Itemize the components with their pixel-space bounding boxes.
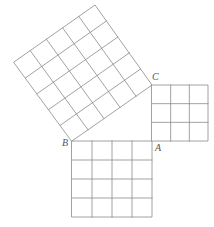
square-on-bc-grid-line [79, 16, 136, 96]
square-on-bc-grid-line [63, 28, 120, 108]
square-on-ac-outline [152, 85, 208, 141]
square-on-bc-grid-line [46, 39, 104, 118]
square-on-bc-grid-line [37, 37, 118, 94]
square-on-ab-leg [72, 141, 152, 217]
square-on-bc-outline [14, 5, 152, 141]
square-on-bc-grid-line [30, 51, 88, 130]
square-on-ac-leg [152, 85, 208, 141]
square-on-bc-grid-line [26, 21, 107, 78]
pythagoras-diagram-canvas: A B C [0, 0, 214, 227]
vertex-label-a: A [154, 142, 162, 153]
pythagoras-figure: A B C [0, 0, 214, 227]
square-on-bc-grid-line [49, 53, 129, 109]
vertex-label-b: B [62, 137, 68, 148]
vertex-label-c: C [152, 71, 159, 82]
square-on-bc-grid-line [60, 69, 140, 125]
square-on-bc-hypotenuse [14, 5, 152, 141]
